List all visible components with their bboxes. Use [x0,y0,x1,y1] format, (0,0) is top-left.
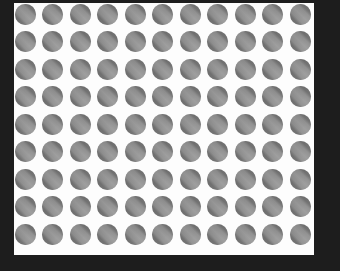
dot [15,59,36,80]
dot [97,224,118,245]
dot [235,4,256,25]
dot [262,224,283,245]
dot [180,86,201,107]
dot [15,196,36,217]
dot [125,59,146,80]
dot [15,4,36,25]
dot [262,4,283,25]
dot [42,31,63,52]
dot-grid [14,3,314,248]
dot [70,224,91,245]
dot [152,59,173,80]
dot [207,141,228,162]
dot [152,196,173,217]
dot [180,196,201,217]
dot [262,31,283,52]
dot [15,86,36,107]
dot [42,114,63,135]
dot [290,141,311,162]
dot [180,59,201,80]
dot [42,224,63,245]
dot [70,141,91,162]
dot [180,169,201,190]
dot [262,169,283,190]
dot [152,141,173,162]
dot [152,114,173,135]
dot [262,196,283,217]
dot [235,196,256,217]
white-panel [14,3,314,255]
dot [42,141,63,162]
dot [42,86,63,107]
dot [290,31,311,52]
dot [125,169,146,190]
dot [235,169,256,190]
dot [125,31,146,52]
dot [290,224,311,245]
dot [42,169,63,190]
dot [70,4,91,25]
dot [180,4,201,25]
dot [262,114,283,135]
dot [70,196,91,217]
dot [97,114,118,135]
dot [97,141,118,162]
dot [97,196,118,217]
dot [235,59,256,80]
dot [207,169,228,190]
dot [290,196,311,217]
dot [70,86,91,107]
dot [180,224,201,245]
dot [290,4,311,25]
dot [15,31,36,52]
dot [97,4,118,25]
dot [290,86,311,107]
dot [152,86,173,107]
dot [207,196,228,217]
dot [235,141,256,162]
dot [70,169,91,190]
dot [207,86,228,107]
dot [97,31,118,52]
dot [42,4,63,25]
dot [235,31,256,52]
dot [262,59,283,80]
dot [152,169,173,190]
dot [152,4,173,25]
dot [180,114,201,135]
dot [180,141,201,162]
screenshot-canvas [0,0,340,271]
dot [290,114,311,135]
dot [15,224,36,245]
dot [290,169,311,190]
dot [207,114,228,135]
dot [207,4,228,25]
dot [235,86,256,107]
dot [97,59,118,80]
dot [207,31,228,52]
dot [70,31,91,52]
dot [125,114,146,135]
dot [70,59,91,80]
dot [15,141,36,162]
dot [125,141,146,162]
dot [152,224,173,245]
dot [262,86,283,107]
dot [15,169,36,190]
dot [262,141,283,162]
dot [152,31,173,52]
dot [125,224,146,245]
dot [235,114,256,135]
dot [42,59,63,80]
dot [97,86,118,107]
dot [207,224,228,245]
dot [290,59,311,80]
dot [97,169,118,190]
dot [180,31,201,52]
dot [15,114,36,135]
dot [42,196,63,217]
dot [125,196,146,217]
dot [235,224,256,245]
dot [207,59,228,80]
dot [70,114,91,135]
